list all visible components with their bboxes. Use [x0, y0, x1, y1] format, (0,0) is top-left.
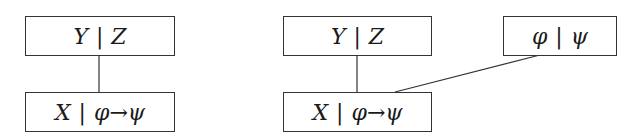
node-left-label: X [312, 100, 328, 125]
node-separator: | [79, 100, 86, 125]
node-right-label: ψ [571, 24, 588, 49]
node-right-label: φ→ψ [352, 100, 403, 125]
diagram1-node-bottom: X | φ→ψ [25, 92, 175, 132]
node-separator: | [353, 24, 360, 49]
diagram2-node-side: φ | ψ [503, 16, 617, 56]
diagram1-node-top: Y | Z [25, 16, 175, 56]
diagram2-node-top: Y | Z [283, 16, 432, 56]
node-right-label: φ→ψ [94, 100, 145, 125]
edge-right-diagonal [395, 55, 540, 92]
node-separator: | [96, 24, 103, 49]
node-left-label: φ [532, 24, 547, 49]
node-separator: | [336, 100, 343, 125]
node-right-label: Z [111, 24, 126, 49]
diagram2-node-bottom: X | φ→ψ [283, 92, 432, 132]
node-right-label: Z [369, 24, 384, 49]
node-separator: | [555, 24, 562, 49]
node-left-label: X [55, 100, 71, 125]
node-left-label: Y [73, 24, 88, 49]
node-left-label: Y [331, 24, 346, 49]
